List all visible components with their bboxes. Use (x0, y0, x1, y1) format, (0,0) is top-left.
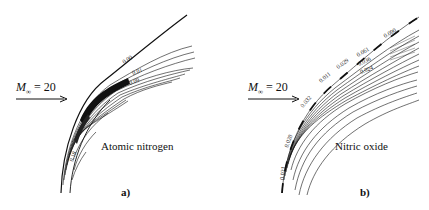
contour-plot-atomic-nitrogen: 0.00 0.01 0.09 0.18 (0, 0, 215, 210)
panel-atomic-nitrogen: 0.00 0.01 0.09 0.18 M∞ = 20 Atomic nitro… (0, 0, 215, 210)
svg-text:0.011: 0.011 (318, 71, 332, 84)
species-label: Nitric oxide (335, 140, 388, 152)
svg-text:0.01: 0.01 (131, 67, 143, 76)
contour-plot-nitric-oxide: 0.090 0.061 0.036 0.029 0.024 0.011 0.03… (215, 0, 429, 210)
freestream-mach-label: M∞ = 20 (248, 80, 288, 96)
svg-text:0.032: 0.032 (299, 94, 312, 108)
panel-label: a) (121, 186, 130, 198)
species-label: Atomic nitrogen (101, 140, 173, 152)
svg-text:0.00: 0.00 (121, 54, 133, 65)
svg-text:0.090: 0.090 (383, 27, 398, 39)
svg-text:0.029: 0.029 (335, 57, 350, 70)
panel-label: b) (360, 186, 370, 198)
svg-text:0.021: 0.021 (279, 166, 286, 180)
freestream-mach-label: M∞ = 20 (16, 80, 56, 96)
panel-nitric-oxide: 0.090 0.061 0.036 0.029 0.024 0.011 0.03… (215, 0, 429, 210)
